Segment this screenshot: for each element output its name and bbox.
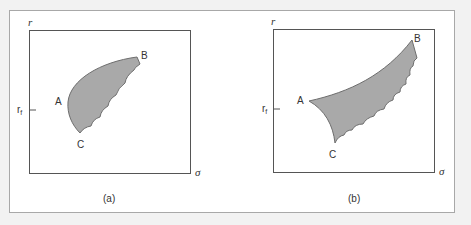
diagram-canvas: r σ rf A B C (a) r σ rf A B C (b) <box>0 0 471 225</box>
panel-b-feasible-region <box>309 40 417 143</box>
panel-a-y-axis-label: r <box>28 16 33 28</box>
panel-a-rf-label: rf <box>17 104 22 116</box>
panel-b: r σ rf A B C (b) <box>262 15 445 204</box>
panel-b-point-b-label: B <box>414 33 421 44</box>
panel-a-x-axis-label: σ <box>195 166 201 178</box>
panel-a: r σ rf A B C (a) <box>17 16 201 204</box>
panel-b-rf-label: rf <box>262 103 267 115</box>
panel-b-y-axis-label: r <box>271 15 276 27</box>
panel-b-x-axis-label: σ <box>439 165 445 177</box>
panel-a-feasible-region <box>68 57 140 133</box>
panel-b-caption: (b) <box>348 193 360 204</box>
panel-a-point-a-label: A <box>55 96 62 107</box>
panel-a-point-c-label: C <box>77 139 84 150</box>
panel-a-point-b-label: B <box>141 50 148 61</box>
panel-b-point-c-label: C <box>329 149 336 160</box>
panel-b-point-a-label: A <box>297 95 304 106</box>
panel-a-frame <box>30 31 191 174</box>
panel-a-caption: (a) <box>103 193 115 204</box>
